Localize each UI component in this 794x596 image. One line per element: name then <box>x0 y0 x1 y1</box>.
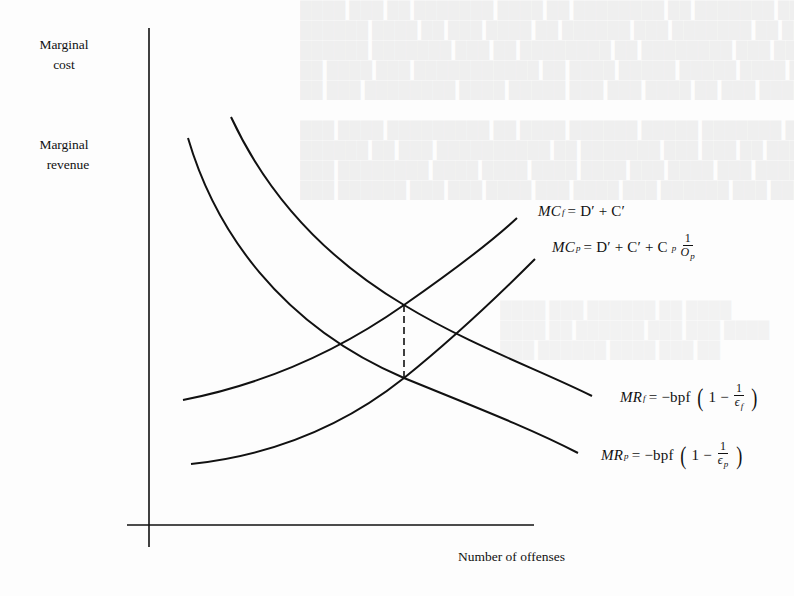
eq-mrp-paren-close: ) <box>736 446 742 466</box>
eq-mrf-frac-den: ϵ <box>735 395 740 409</box>
y-label-cost-line2: cost <box>34 57 94 73</box>
eq-mrp-sub: p <box>624 451 629 461</box>
diagram-canvas <box>0 0 794 596</box>
eq-mrf-frac-num: 1 <box>734 382 744 396</box>
y-axis-label-revenue: Marginal revenue <box>34 137 94 173</box>
eq-mcp-frac-num: 1 <box>683 232 693 246</box>
eq-mrf-rhs: = −bpf <box>649 389 691 406</box>
eq-mcp-frac-den: O <box>680 245 689 259</box>
eq-mrp-rhs: = −bpf <box>632 447 674 464</box>
x-axis-label: Number of offenses <box>458 549 565 565</box>
eq-mcp-fraction: 1 Op <box>678 232 697 263</box>
eq-mrf-fraction: 1 ϵf <box>733 382 746 413</box>
eq-mcp-sub: p <box>576 243 581 253</box>
curve-mc-f <box>183 218 517 400</box>
eq-mcp-rhs-sub: p <box>672 243 677 253</box>
eq-mrf-paren-close: ) <box>751 388 757 408</box>
eq-mrp-fraction: 1 ϵp <box>716 440 731 471</box>
eq-mrf-sub: f <box>643 393 646 403</box>
eq-mcp-rhs: = D′ + C′ + C <box>584 239 668 256</box>
curve-mc-p <box>191 259 535 464</box>
eq-mrp-paren-open: ( <box>680 446 686 466</box>
eq-mcp-lhs: MC <box>552 239 575 256</box>
eq-mcf-rhs: = D′ + C′ <box>568 203 625 220</box>
equation-mc-f: MCf = D′ + C′ <box>538 203 628 220</box>
eq-mrf-lhs: MR <box>620 389 642 406</box>
y-label-revenue-line1: Marginal <box>34 137 94 153</box>
eq-mrp-frac-num: 1 <box>718 440 728 454</box>
eq-mrp-frac-den: ϵ <box>718 453 723 467</box>
equation-mr-p: MRp = −bpf ( 1 − 1 ϵp ) <box>601 440 745 471</box>
eq-mrp-frac-den-sub: p <box>724 459 729 469</box>
eq-mcf-sub: f <box>562 207 565 217</box>
eq-mcf-lhs: MC <box>538 203 561 220</box>
eq-mrf-paren-open: ( <box>697 388 703 408</box>
curve-mr-p <box>188 138 578 453</box>
equation-mc-p: MCp = D′ + C′ + Cp 1 Op <box>552 232 699 263</box>
eq-mrf-frac-den-sub: f <box>741 401 744 411</box>
y-label-revenue-line2: revenue <box>34 157 94 173</box>
eq-mcp-frac-den-sub: p <box>690 251 695 261</box>
curve-mr-f <box>231 117 592 396</box>
eq-mrf-one-minus: 1 − <box>709 389 729 406</box>
equation-mr-f: MRf = −bpf ( 1 − 1 ϵf ) <box>620 382 760 413</box>
y-axis-label-cost: Marginal cost <box>34 37 94 73</box>
eq-mrp-lhs: MR <box>601 447 623 464</box>
y-label-cost-line1: Marginal <box>34 37 94 53</box>
eq-mrp-one-minus: 1 − <box>692 447 712 464</box>
